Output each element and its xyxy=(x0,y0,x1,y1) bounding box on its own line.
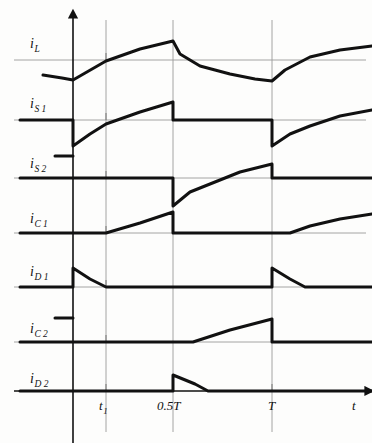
signal-label-i-S2: iS 2 xyxy=(30,157,46,174)
x-tick-label-half-T: 0.5T xyxy=(157,399,180,412)
axis-ticks xyxy=(106,53,272,391)
signal-label-i-D2: iD 2 xyxy=(30,372,48,389)
x-tick-label-t1: t1 xyxy=(99,399,108,415)
signal-label-i-D1: iD 1 xyxy=(30,265,48,282)
signal-label-i-C2: iC 2 xyxy=(30,322,48,339)
signal-label-i-L: iL xyxy=(30,37,40,54)
x-axis-name: t xyxy=(352,399,356,412)
x-tick-label-T: T xyxy=(268,399,275,412)
trace-i_L xyxy=(43,41,372,81)
transition-dashes xyxy=(173,102,272,391)
signal-baselines xyxy=(14,60,366,342)
signal-label-i-S1: iS 1 xyxy=(30,97,46,114)
trace-i_D1 xyxy=(20,268,372,287)
waveform-canvas xyxy=(0,0,372,443)
signal-label-i-C1: iC 1 xyxy=(30,212,48,229)
waveform-timing-figure: iL iS 1 iS 2 iC 1 iD 1 iC 2 iD 2 t1 0.5T… xyxy=(0,0,372,443)
